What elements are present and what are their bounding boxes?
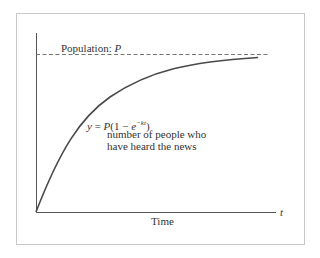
formula-eq: = <box>92 120 104 132</box>
formula-exponent: −kt <box>136 119 146 127</box>
x-axis-title: Time <box>151 216 174 227</box>
asymptote-label: Population: P <box>61 43 121 54</box>
curve-description-line1: number of people who <box>107 129 206 140</box>
population-prefix: Population: <box>61 42 112 54</box>
x-axis-symbol: t <box>280 207 283 218</box>
population-symbol: P <box>114 42 121 54</box>
curve-description-line2: have heard the news <box>107 141 197 152</box>
